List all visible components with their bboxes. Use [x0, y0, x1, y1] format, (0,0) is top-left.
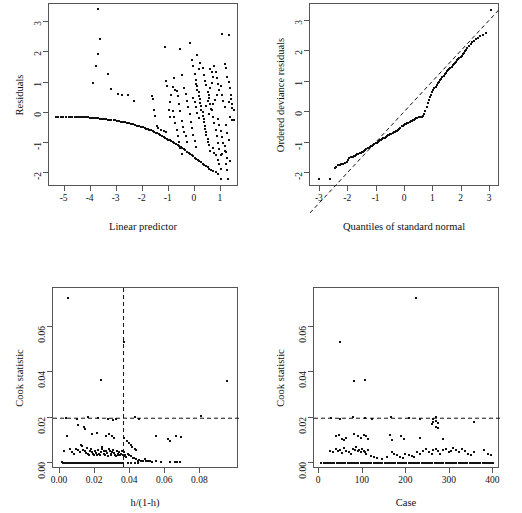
data-point	[416, 451, 418, 453]
y-axis-tick-label: 0.00	[298, 462, 308, 479]
diagnostic-plot-figure: -5-4-3-2-101-2-10123Linear predictorResi…	[0, 0, 522, 513]
data-point	[435, 416, 437, 418]
data-point	[339, 449, 341, 451]
data-point	[435, 448, 437, 450]
data-point	[399, 456, 401, 458]
points-cook-vs-case	[314, 288, 498, 467]
data-point	[413, 456, 415, 458]
data-point	[360, 451, 362, 453]
data-point	[341, 452, 343, 454]
x-axis-tick	[405, 468, 406, 473]
data-point	[339, 341, 341, 343]
y-axis-title: Cook statistic	[275, 349, 286, 406]
data-point	[360, 437, 362, 439]
data-point	[376, 457, 378, 459]
data-point	[343, 439, 345, 441]
data-point	[350, 453, 352, 455]
data-point	[422, 450, 424, 452]
data-point	[367, 438, 369, 440]
data-point	[419, 437, 421, 439]
data-point	[442, 449, 444, 451]
data-point	[345, 437, 347, 439]
data-point	[330, 417, 332, 419]
x-axis-tick	[492, 468, 493, 473]
x-axis-tick-label: 100	[355, 475, 369, 485]
data-point	[364, 379, 366, 381]
data-point	[381, 458, 383, 460]
y-axis-tick-label: 0.06	[298, 326, 308, 343]
data-point	[439, 453, 441, 455]
data-point	[371, 418, 373, 420]
data-point	[437, 422, 439, 424]
data-point	[343, 447, 345, 449]
y-axis-tick	[308, 326, 313, 327]
data-point	[390, 416, 392, 418]
x-axis-tick-label: 300	[442, 475, 456, 485]
data-point	[355, 446, 357, 448]
data-point	[402, 457, 404, 459]
data-point	[473, 421, 475, 423]
plot-area-cook-vs-case	[313, 287, 499, 468]
data-point	[437, 427, 439, 429]
data-point	[431, 423, 433, 425]
data-point	[415, 297, 417, 299]
data-point	[408, 454, 410, 456]
data-point	[338, 434, 340, 436]
panel-cook-vs-case: 01002003004000.000.020.040.06CaseCook st…	[0, 0, 522, 513]
data-point	[425, 448, 427, 450]
data-point	[445, 448, 447, 450]
data-point	[473, 451, 475, 453]
data-point	[404, 453, 406, 455]
y-axis-tick	[308, 417, 313, 418]
x-axis-tick	[318, 468, 319, 473]
data-point	[329, 450, 331, 452]
data-point	[339, 418, 341, 420]
data-point	[470, 454, 472, 456]
data-point	[335, 435, 337, 437]
y-axis-tick-label: 0.02	[298, 417, 308, 434]
x-axis-tick	[449, 468, 450, 473]
data-point	[353, 433, 355, 435]
x-axis-tick-label: 0	[316, 475, 321, 485]
y-axis-tick-label: 0.04	[298, 371, 308, 388]
data-point	[370, 455, 372, 457]
data-point	[419, 418, 421, 420]
data-point	[396, 454, 398, 456]
data-point	[389, 434, 391, 436]
data-point	[364, 417, 366, 419]
data-point	[458, 451, 460, 453]
x-axis-tick	[362, 468, 363, 473]
data-point	[391, 439, 393, 441]
data-point	[450, 450, 452, 452]
data-point	[367, 449, 369, 451]
x-axis-title: Case	[396, 497, 416, 508]
data-point	[487, 453, 489, 455]
data-point	[452, 447, 454, 449]
data-point	[461, 448, 463, 450]
data-point	[373, 456, 375, 458]
data-point	[442, 438, 444, 440]
data-point	[431, 453, 433, 455]
data-point	[332, 451, 334, 453]
data-point	[353, 380, 355, 382]
data-point	[483, 449, 485, 451]
data-point	[386, 456, 388, 458]
data-point	[464, 450, 466, 452]
data-point	[400, 435, 402, 437]
data-point	[408, 417, 410, 419]
data-point	[455, 449, 457, 451]
data-point	[419, 453, 421, 455]
data-point	[403, 438, 405, 440]
data-point	[490, 454, 492, 456]
y-axis-tick	[308, 462, 313, 463]
x-axis-tick-label: 400	[485, 475, 499, 485]
data-point	[492, 462, 494, 464]
data-point	[357, 435, 359, 437]
y-axis-tick	[308, 371, 313, 372]
x-axis-tick-label: 200	[398, 475, 412, 485]
data-point	[365, 453, 367, 455]
data-point	[352, 416, 354, 418]
